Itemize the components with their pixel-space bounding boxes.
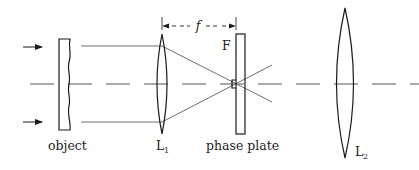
svg-text:2: 2	[363, 152, 368, 161]
object-plate	[59, 39, 70, 130]
lens-l2-label: L 2	[355, 144, 368, 161]
focal-point-label: F	[222, 38, 231, 53]
svg-text:1: 1	[164, 146, 169, 155]
object-label: object	[48, 138, 87, 153]
optical-diagram: f F object L 1 phase plate L 2	[0, 0, 419, 170]
phase-plate-label: phase plate	[206, 138, 279, 153]
lens-l1-label: L 1	[156, 138, 169, 155]
focal-length-label: f	[195, 18, 203, 33]
lens-l2	[337, 8, 354, 158]
